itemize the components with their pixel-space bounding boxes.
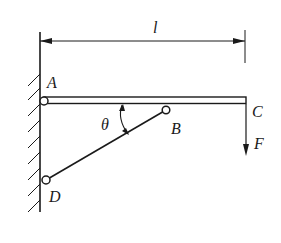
pin-d-icon [42, 176, 50, 184]
force-arrow-icon [243, 144, 249, 156]
beam-ac [44, 97, 246, 104]
dimension-arrow-left-icon [40, 38, 52, 44]
length-label: l [153, 19, 158, 36]
dimension-line [40, 30, 245, 63]
bracket-diagram: l θ A B C D F [0, 0, 281, 243]
angle-label: θ [101, 116, 109, 133]
wall-hatching [28, 74, 40, 212]
force-label: F [253, 135, 264, 152]
point-c-label: C [252, 103, 263, 120]
point-d-label: D [48, 188, 61, 205]
pin-a-icon [40, 97, 48, 105]
point-a-label: A [46, 74, 57, 91]
dimension-arrow-right-icon [233, 38, 245, 44]
pin-b-icon [162, 106, 170, 114]
point-b-label: B [171, 120, 181, 137]
